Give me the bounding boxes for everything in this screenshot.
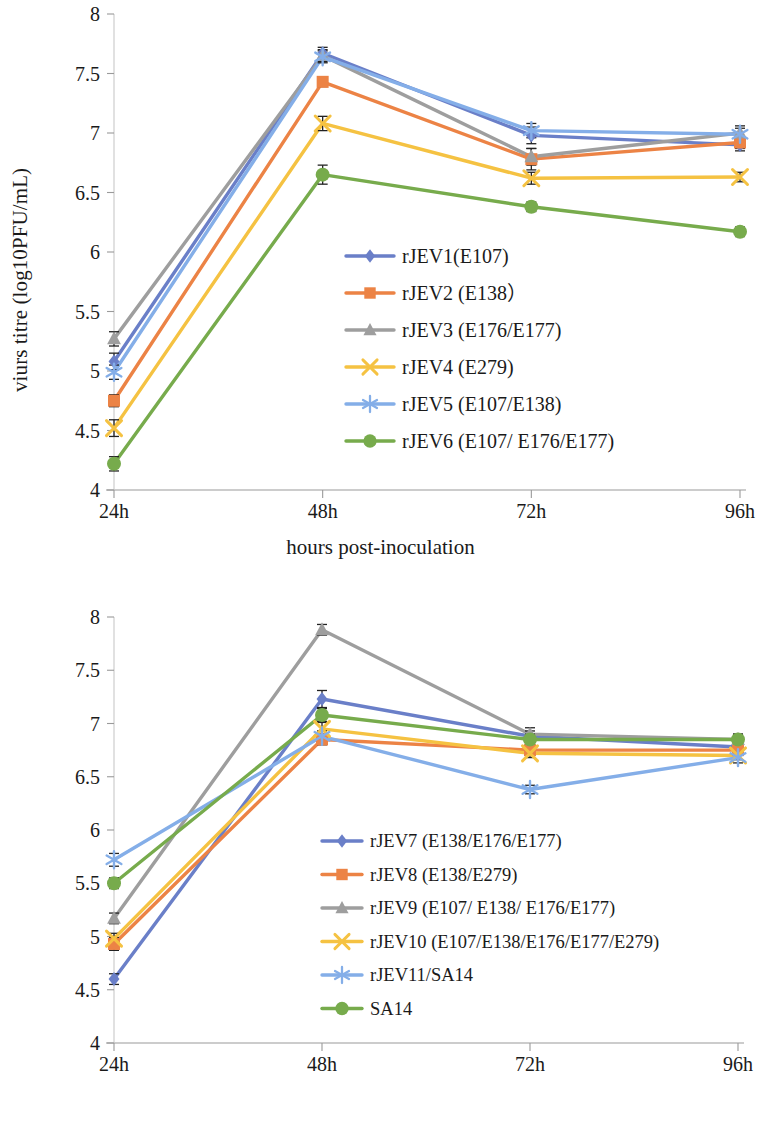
data-point-marker-circle xyxy=(363,434,376,447)
virus-growth-curve-chart-2: 44.555.566.577.5824h48h72h96hrJEV7 (E138… xyxy=(0,580,761,1127)
data-point-marker-circle xyxy=(107,876,121,890)
series-line-1 xyxy=(114,82,740,401)
legend-item[interactable]: rJEV11/SA14 xyxy=(322,965,473,985)
virus-growth-curve-chart-1: 44.555.566.577.5824h48h72h96hrJEV1(E107)… xyxy=(0,0,761,580)
legend-item-label: rJEV11/SA14 xyxy=(370,965,473,985)
legend-item-label: rJEV7 (E138/E176/E177) xyxy=(370,831,562,852)
legend-item[interactable]: rJEV3 (E176/E177) xyxy=(346,319,561,342)
x-axis-tick-label: 24h xyxy=(99,500,129,522)
legend-item[interactable]: rJEV9 (E107/ E138/ E176/E177) xyxy=(322,898,615,919)
data-point-marker-circle xyxy=(524,200,538,214)
legend-item-label: rJEV5 (E107/E138) xyxy=(402,393,561,416)
y-axis-tick-label: 5.5 xyxy=(75,872,100,894)
y-axis-tick-label: 5 xyxy=(90,926,100,948)
y-axis-tick-label: 8 xyxy=(90,606,100,628)
data-point-marker-circle xyxy=(315,708,329,722)
y-axis-tick-label: 4.5 xyxy=(75,979,100,1001)
legend-item[interactable]: rJEV10 (E107/E138/E176/E177/E279) xyxy=(322,932,659,953)
legend-item[interactable]: rJEV4 (E279) xyxy=(346,356,514,379)
x-axis-tick-label: 24h xyxy=(99,1053,129,1075)
legend-item[interactable]: rJEV6 (E107/ E176/E177) xyxy=(346,430,614,453)
legend-item-label: rJEV4 (E279) xyxy=(402,356,514,379)
x-axis-tick-label: 96h xyxy=(725,500,755,522)
legend-item-label: rJEV6 (E107/ E176/E177) xyxy=(402,430,614,453)
data-point-marker-circle xyxy=(733,225,747,239)
y-axis-tick-label: 5.5 xyxy=(75,301,100,323)
y-axis-tick-label: 4 xyxy=(90,479,100,501)
legend-item-label: SA14 xyxy=(370,999,412,1019)
data-point-marker-square xyxy=(108,395,120,407)
data-point-marker-square xyxy=(364,287,375,298)
data-point-marker-circle xyxy=(335,1002,348,1015)
series-line-3 xyxy=(114,123,740,428)
x-axis-tick-label: 48h xyxy=(307,1053,337,1075)
chart-1-y-axis-title: viurs titre (log10PFU/mL) xyxy=(8,168,33,392)
data-point-marker-circle xyxy=(316,168,330,182)
x-axis-tick-label: 72h xyxy=(515,1053,545,1075)
data-point-marker-asterisk xyxy=(107,851,122,868)
y-axis-tick-label: 7.5 xyxy=(75,659,100,681)
legend-item[interactable]: SA14 xyxy=(322,999,412,1019)
y-axis-tick-label: 5 xyxy=(90,360,100,382)
y-axis-tick-label: 7.5 xyxy=(75,63,100,85)
legend-item-label: rJEV10 (E107/E138/E176/E177/E279) xyxy=(370,932,659,953)
y-axis-tick-label: 6.5 xyxy=(75,182,100,204)
y-axis-tick-label: 6 xyxy=(90,819,100,841)
legend-item-label: rJEV1(E107) xyxy=(402,245,509,268)
legend-item-label: rJEV3 (E176/E177) xyxy=(402,319,561,342)
y-axis-tick-label: 4 xyxy=(90,1032,100,1054)
chart-1-x-axis-title: hours post-inoculation xyxy=(0,535,761,560)
legend-item[interactable]: rJEV1(E107) xyxy=(346,245,509,268)
data-point-marker-circle xyxy=(523,732,537,746)
legend-item-label: rJEV9 (E107/ E138/ E176/E177) xyxy=(370,898,615,919)
y-axis-tick-label: 7 xyxy=(90,713,100,735)
chart-legend: rJEV7 (E138/E176/E177)rJEV8 (E138/E279)r… xyxy=(322,831,659,1019)
legend-item-label: rJEV8 (E138/E279) xyxy=(370,865,517,886)
legend-item[interactable]: rJEV8 (E138/E279) xyxy=(322,865,517,886)
data-point-marker-circle xyxy=(731,732,745,746)
legend-item[interactable]: rJEV2 (E138） xyxy=(346,282,527,305)
chart-2-plot-area: 44.555.566.577.5824h48h72h96hrJEV7 (E138… xyxy=(0,580,761,1127)
y-axis-tick-label: 6 xyxy=(90,241,100,263)
data-point-marker-circle xyxy=(107,457,121,471)
data-point-marker-diamond xyxy=(337,834,347,847)
chart-1-plot-area: 44.555.566.577.5824h48h72h96hrJEV1(E107)… xyxy=(0,0,761,580)
data-point-marker-square xyxy=(336,869,347,880)
legend-item[interactable]: rJEV5 (E107/E138) xyxy=(346,393,561,416)
x-axis-tick-label: 96h xyxy=(723,1053,753,1075)
x-axis-tick-label: 48h xyxy=(308,500,338,522)
series-line-0 xyxy=(114,53,740,361)
legend-item-label: rJEV2 (E138） xyxy=(402,282,527,305)
data-point-marker-square xyxy=(317,76,329,88)
chart-legend: rJEV1(E107)rJEV2 (E138）rJEV3 (E176/E177)… xyxy=(346,245,614,453)
y-axis-tick-label: 4.5 xyxy=(75,420,100,442)
data-point-marker-diamond xyxy=(365,249,375,262)
x-axis-tick-label: 72h xyxy=(516,500,546,522)
y-axis-tick-label: 7 xyxy=(90,122,100,144)
legend-item[interactable]: rJEV7 (E138/E176/E177) xyxy=(322,831,562,852)
y-axis-tick-label: 6.5 xyxy=(75,766,100,788)
y-axis-tick-label: 8 xyxy=(90,3,100,25)
